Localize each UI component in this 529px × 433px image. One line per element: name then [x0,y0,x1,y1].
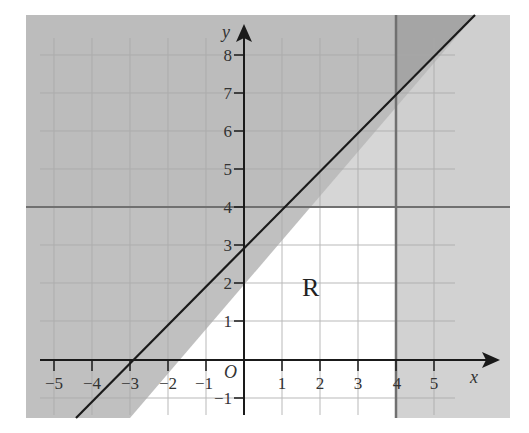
y-tick-label: 8 [224,46,233,65]
region-label: R [302,273,320,302]
inequality-graph: −5 −4 −3 −2 −1 1 2 3 4 5 −1 1 2 3 4 5 6 … [0,0,529,433]
y-tick-label: −1 [214,389,232,408]
y-tick-label: 5 [224,160,233,179]
x-tick-label: −1 [195,374,213,393]
y-tick-label: 4 [224,198,233,217]
x-tick-label: 1 [278,374,287,393]
y-axis-label: y [220,22,230,42]
x-tick-label: −5 [45,374,63,393]
x-tick-label: 4 [393,374,402,393]
x-tick-label: 5 [430,374,439,393]
x-tick-label: 2 [316,374,325,393]
y-tick-label: 7 [224,84,233,103]
y-tick-label: 1 [224,312,233,331]
x-tick-label: −3 [121,374,139,393]
x-tick-label: −4 [83,374,102,393]
origin-label: O [224,362,237,382]
y-tick-label: 6 [224,122,233,141]
x-axis-label: x [469,367,478,387]
x-tick-label: −2 [159,374,177,393]
y-tick-label: 2 [224,274,233,293]
shaded-regions [26,15,510,418]
x-tick-label: 3 [354,374,363,393]
y-tick-label: 3 [224,236,233,255]
